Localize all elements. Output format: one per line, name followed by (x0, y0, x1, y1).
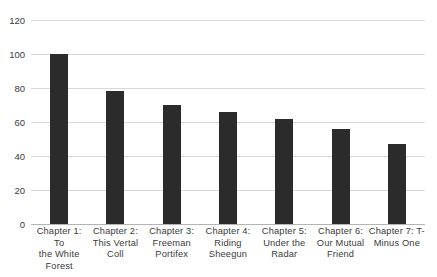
bar[interactable] (163, 105, 181, 224)
bar-slot (144, 20, 200, 224)
y-axis-tick-labels: 020406080100120 (0, 20, 28, 224)
x-axis-category-label: Chapter 1: Tothe WhiteForest (31, 226, 87, 272)
x-axis-category-label: Chapter 6:Our MutualFriend (312, 226, 368, 261)
bar-slot (369, 20, 425, 224)
x-axis-category-label-line: Chapter 5: (256, 226, 312, 238)
x-axis-category-label-line: Chapter 7: T- (369, 226, 425, 238)
x-axis-category-label-line: Coll (87, 249, 143, 261)
x-axis-category-label-line: Riding (200, 238, 256, 250)
bar[interactable] (106, 91, 124, 224)
x-axis-category-label: Chapter 3:FreemanPortifex (144, 226, 200, 261)
x-axis-category-label-line: Under the (256, 238, 312, 250)
bar-slot (87, 20, 143, 224)
x-axis-category-label-line: Chapter 2: (87, 226, 143, 238)
bar[interactable] (219, 112, 237, 224)
bar-slot (256, 20, 312, 224)
x-axis-category-label-line: Friend (312, 249, 368, 261)
y-axis-tick-label: 100 (9, 49, 25, 60)
x-axis-category-label-line: Radar (256, 249, 312, 261)
x-axis-category-label-line: Chapter 3: (144, 226, 200, 238)
bar[interactable] (332, 129, 350, 224)
bar-slot (312, 20, 368, 224)
x-axis-category-labels: Chapter 1: Tothe WhiteForestChapter 2:Th… (31, 226, 425, 274)
x-axis-category-label: Chapter 7: T-Minus One (369, 226, 425, 249)
x-axis-category-label-line: Sheegun (200, 249, 256, 261)
x-axis-category-label-line: Chapter 4: (200, 226, 256, 238)
x-axis-category-label-line: Chapter 6: (312, 226, 368, 238)
y-axis-tick-label: 20 (14, 185, 25, 196)
y-axis-tick-label: 40 (14, 151, 25, 162)
x-axis-category-label-line: This Vertal (87, 238, 143, 250)
y-axis-tick-label: 80 (14, 83, 25, 94)
x-axis-category-label-line: Freeman (144, 238, 200, 250)
x-axis-category-label-line: Portifex (144, 249, 200, 261)
x-axis-category-label-line: Forest (31, 261, 87, 273)
y-axis-tick-label: 60 (14, 117, 25, 128)
x-axis-category-label: Chapter 4:RidingSheegun (200, 226, 256, 261)
bar[interactable] (50, 54, 68, 224)
x-axis-category-label: Chapter 5:Under theRadar (256, 226, 312, 261)
x-axis-category-label-line: Our Mutual (312, 238, 368, 250)
x-axis-category-label-line: the White (31, 249, 87, 261)
bar-chart: 020406080100120 Chapter 1: Tothe WhiteFo… (0, 0, 437, 277)
y-axis-tick-label: 120 (9, 15, 25, 26)
x-axis-baseline (31, 224, 425, 225)
bars-layer (31, 20, 425, 224)
y-axis-tick-label: 0 (20, 219, 25, 230)
bar[interactable] (275, 119, 293, 224)
x-axis-category-label-line: Chapter 1: To (31, 226, 87, 249)
x-axis-category-label: Chapter 2:This VertalColl (87, 226, 143, 261)
bar[interactable] (388, 144, 406, 224)
bar-slot (31, 20, 87, 224)
x-axis-category-label-line: Minus One (369, 238, 425, 250)
bar-slot (200, 20, 256, 224)
